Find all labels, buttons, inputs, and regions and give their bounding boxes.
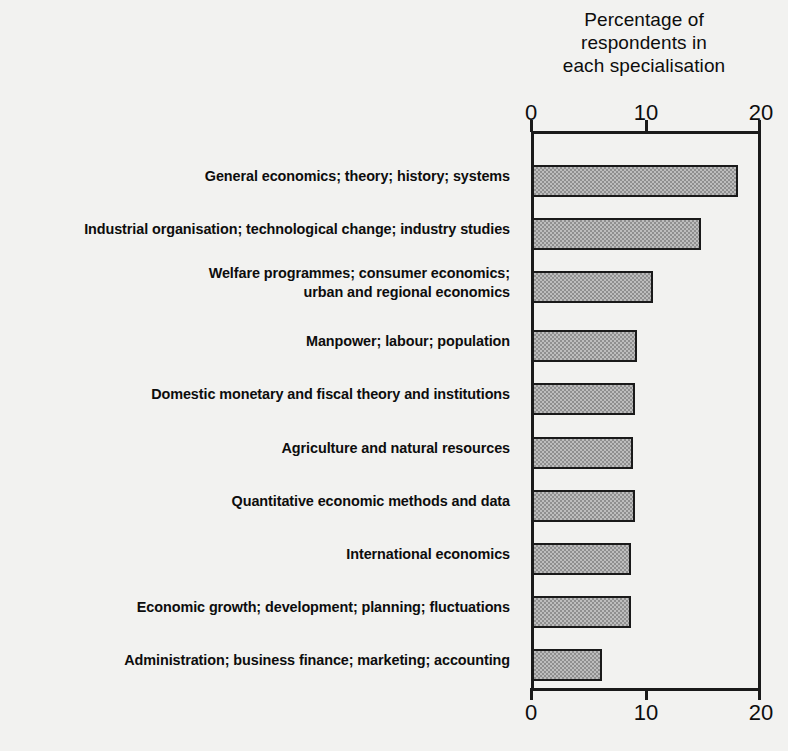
bar: [532, 383, 635, 415]
bar: [532, 596, 631, 628]
category-label: Domestic monetary and fiscal theory and …: [64, 384, 510, 403]
bar-chart: Percentage of respondents in each specia…: [0, 0, 788, 751]
bar: [532, 165, 738, 197]
bottom-xtick-label-10: 10: [634, 700, 658, 726]
bar-row: Administration; business finance; market…: [0, 644, 788, 694]
bar: [532, 437, 633, 469]
category-label: International economics: [64, 544, 510, 563]
category-label-line-1: Welfare programmes; consumer economics;: [64, 263, 510, 282]
bottom-axis-tick-labels: 0 10 20: [0, 700, 788, 726]
bar-row: Quantitative economic methods and data: [0, 485, 788, 535]
bottom-xtick-label-0: 0: [525, 700, 537, 726]
category-label: General economics; theory; history; syst…: [64, 166, 510, 185]
category-label: Administration; business finance; market…: [64, 650, 510, 669]
category-label: Economic growth; development; planning; …: [64, 597, 510, 616]
bar: [532, 330, 637, 362]
category-label: Industrial organisation; technological c…: [64, 219, 510, 238]
bar-row: Agriculture and natural resources: [0, 432, 788, 482]
category-label: Manpower; labour; population: [64, 331, 510, 350]
category-label: Welfare programmes; consumer economics; …: [64, 263, 510, 301]
bar: [532, 543, 631, 575]
bar-row: Welfare programmes; consumer economics; …: [0, 266, 788, 316]
bar-row: General economics; theory; history; syst…: [0, 160, 788, 210]
category-label-line-2: urban and regional economics: [64, 282, 510, 301]
category-label: Agriculture and natural resources: [64, 438, 510, 457]
bottom-xtick-label-20: 20: [749, 700, 773, 726]
bar-row: Economic growth; development; planning; …: [0, 591, 788, 641]
bar-row: Domestic monetary and fiscal theory and …: [0, 378, 788, 428]
bar: [532, 490, 635, 522]
bottom-tick-mark-10: [645, 688, 648, 700]
bottom-tick-mark-0: [530, 688, 533, 700]
bottom-tick-mark-20: [758, 688, 761, 700]
bar: [532, 649, 602, 681]
category-label: Quantitative economic methods and data: [64, 491, 510, 510]
bar-rows: General economics; theory; history; syst…: [0, 0, 788, 751]
bar-row: Manpower; labour; population: [0, 325, 788, 375]
bar-row: International economics: [0, 538, 788, 588]
bar: [532, 271, 653, 303]
bar-row: Industrial organisation; technological c…: [0, 213, 788, 263]
bar: [532, 218, 701, 250]
